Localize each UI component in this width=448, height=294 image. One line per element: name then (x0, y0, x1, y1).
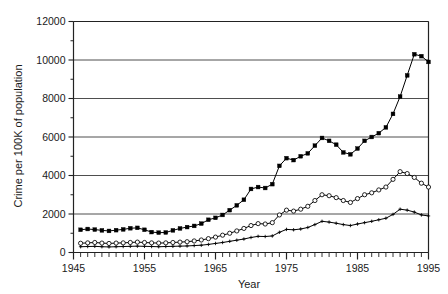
data-point-square (171, 228, 175, 232)
data-point-circle (341, 198, 345, 202)
data-point-square (270, 182, 274, 186)
data-point-circle (242, 226, 246, 230)
y-tick-label: 12000 (36, 15, 65, 27)
data-point-circle (164, 241, 168, 245)
data-point-circle (334, 196, 338, 200)
data-point-square (420, 54, 424, 58)
data-point-circle (256, 222, 260, 226)
data-point-square (405, 74, 409, 78)
data-point-circle (150, 241, 154, 245)
data-point-circle (128, 240, 132, 244)
data-point-square (221, 213, 225, 217)
data-point-circle (100, 241, 104, 245)
data-point-circle (426, 185, 430, 189)
y-tick-label: 2000 (42, 208, 66, 220)
y-tick-label: 0 (60, 246, 66, 258)
data-point-square (349, 152, 353, 156)
data-point-circle (114, 241, 118, 245)
data-point-square (363, 139, 367, 143)
data-point-circle (412, 175, 416, 179)
data-point-square (164, 231, 168, 235)
data-point-square (278, 164, 282, 168)
data-point-square (143, 228, 147, 232)
data-point-square (427, 60, 431, 64)
y-tick-label: 10000 (36, 54, 65, 66)
data-point-circle (79, 241, 83, 245)
data-point-square (192, 224, 196, 228)
data-point-square (320, 136, 324, 140)
data-point-circle (121, 241, 125, 245)
data-point-circle (284, 208, 288, 212)
data-point-circle (405, 171, 409, 175)
data-point-circle (299, 207, 303, 211)
data-point-circle (363, 193, 367, 197)
data-point-circle (157, 241, 161, 245)
data-point-circle (199, 238, 203, 242)
data-point-square (93, 228, 97, 232)
data-point-circle (213, 235, 217, 239)
y-tick-label: 6000 (42, 131, 66, 143)
data-point-circle (270, 221, 274, 225)
data-point-circle (142, 240, 146, 244)
data-point-square (136, 226, 140, 230)
data-point-square (79, 228, 83, 232)
data-point-square (341, 151, 345, 155)
data-point-square (334, 143, 338, 147)
data-point-square (327, 139, 331, 143)
data-point-square (370, 135, 374, 139)
data-point-square (150, 230, 154, 234)
data-point-circle (320, 193, 324, 197)
data-point-circle (313, 198, 317, 202)
data-point-square (199, 222, 203, 226)
data-point-circle (93, 240, 97, 244)
data-point-square (249, 187, 253, 191)
y-tick-label: 4000 (42, 169, 66, 181)
y-tick-label: 8000 (42, 92, 66, 104)
data-point-square (263, 186, 267, 190)
data-point-square (306, 151, 310, 155)
data-point-square (412, 52, 416, 56)
data-point-square (313, 144, 317, 148)
data-point-circle (228, 231, 232, 235)
x-tick-label: 1995 (417, 262, 441, 274)
data-point-square (384, 125, 388, 129)
data-point-circle (355, 197, 359, 201)
data-point-circle (249, 223, 253, 227)
data-point-circle (221, 233, 225, 237)
data-point-square (256, 185, 260, 189)
x-tick-label: 1945 (62, 262, 86, 274)
data-point-circle (263, 222, 267, 226)
data-point-circle (391, 177, 395, 181)
data-point-square (114, 228, 118, 232)
data-point-square (128, 226, 132, 230)
data-point-square (178, 227, 182, 231)
data-point-circle (86, 241, 90, 245)
data-point-square (235, 203, 239, 207)
data-point-circle (377, 188, 381, 192)
data-point-square (356, 147, 360, 151)
data-point-square (285, 156, 289, 160)
data-point-circle (384, 185, 388, 189)
data-point-circle (192, 239, 196, 243)
data-point-circle (292, 209, 296, 213)
data-point-circle (348, 200, 352, 204)
data-point-circle (185, 240, 189, 244)
y-axis-title: Crime per 100K of population (12, 64, 24, 207)
data-point-square (292, 158, 296, 162)
data-point-circle (206, 237, 210, 241)
data-point-square (86, 227, 90, 231)
data-point-circle (327, 194, 331, 198)
data-point-square (398, 95, 402, 99)
data-point-square (157, 231, 161, 235)
data-point-square (299, 154, 303, 158)
data-point-square (100, 228, 104, 232)
x-tick-label: 1975 (275, 262, 299, 274)
data-point-circle (277, 213, 281, 217)
data-point-circle (235, 229, 239, 233)
x-tick-label: 1965 (204, 262, 228, 274)
data-point-circle (398, 170, 402, 174)
data-point-square (214, 216, 218, 220)
data-point-circle (178, 240, 182, 244)
x-tick-label: 1985 (346, 262, 370, 274)
data-point-circle (306, 204, 310, 208)
